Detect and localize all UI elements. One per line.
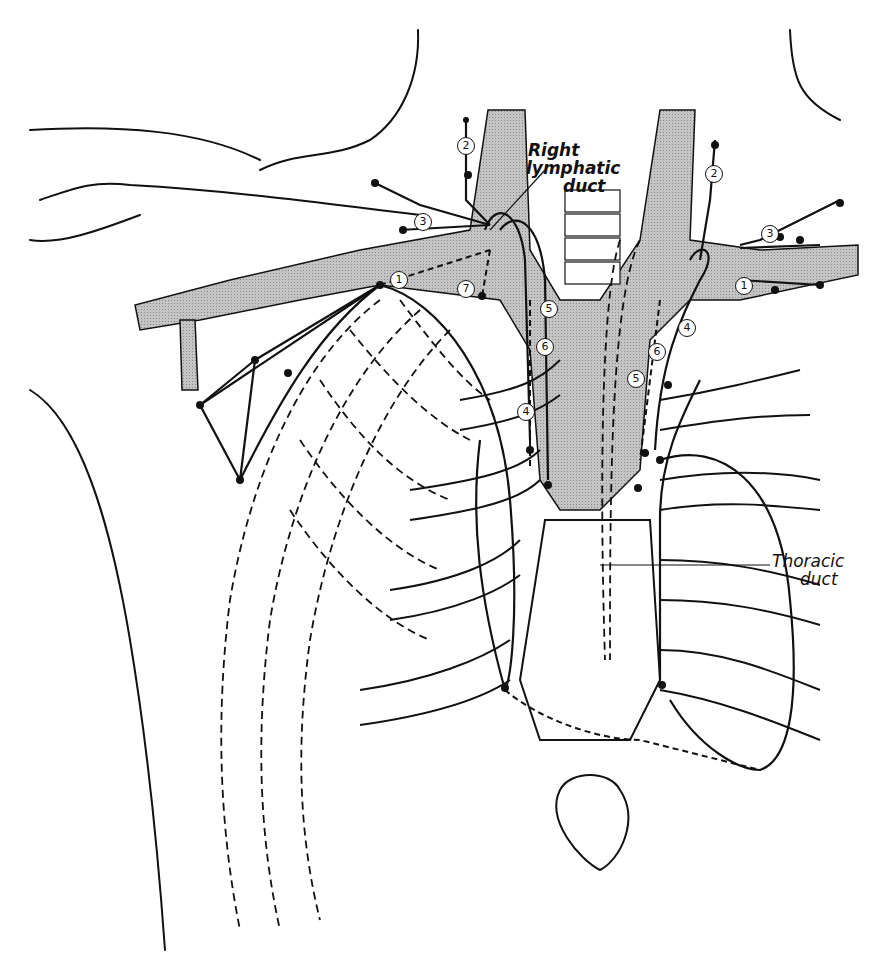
node-marker: 2 [457, 137, 475, 155]
neck-left-outline [260, 30, 418, 170]
label-line: Thoracic [772, 552, 844, 570]
node-marker: 7 [457, 280, 475, 298]
node-marker: 6 [648, 343, 666, 361]
node-marker: 5 [540, 300, 558, 318]
node-marker: 6 [536, 338, 554, 356]
right-lymphatic-duct-label: Right lymphatic duct [528, 141, 620, 195]
vertebral-column [565, 190, 620, 284]
node-marker: 3 [761, 225, 779, 243]
node-marker: 2 [705, 165, 723, 183]
label-line: lymphatic [526, 159, 620, 177]
sternum [520, 520, 660, 870]
node-marker: 1 [390, 271, 408, 289]
node-marker: 3 [414, 213, 432, 231]
node-marker: 5 [627, 370, 645, 388]
label-line: duct [800, 570, 844, 588]
label-line: Right [528, 141, 620, 159]
node-marker: 4 [678, 319, 696, 337]
neck-right-outline [790, 30, 840, 120]
thorax-illustration [0, 0, 878, 969]
anatomical-diagram: Right lymphatic duct Thoracic duct 1 2 3… [0, 0, 878, 969]
thoracic-duct-label: Thoracic duct [772, 552, 844, 588]
node-marker: 1 [735, 277, 753, 295]
label-line: duct [563, 177, 620, 195]
node-marker: 4 [517, 403, 535, 421]
